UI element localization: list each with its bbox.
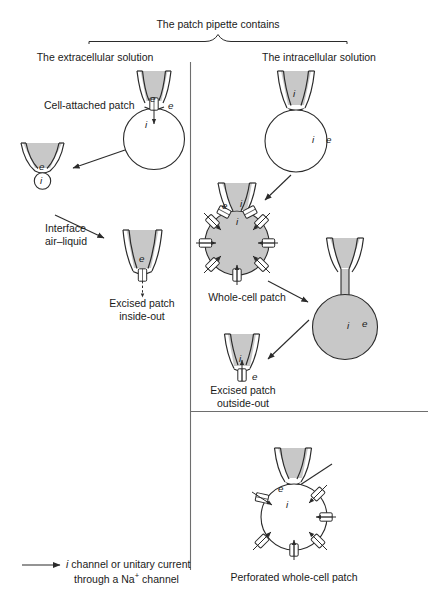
marker-i-large-cell: i <box>347 320 349 331</box>
excised-outside-out-label-line1: Excised patch <box>210 384 275 396</box>
marker-e-large-cell: e <box>362 318 367 329</box>
marker-i-outside-out: i <box>239 353 241 364</box>
legend-i-symbol: i <box>66 558 68 570</box>
intracellular-cell <box>265 110 327 172</box>
legend-superscript-plus: + <box>135 571 139 580</box>
marker-i-whole-cell-body: i <box>236 216 238 227</box>
marker-i-excised-small: i <box>40 175 42 186</box>
marker-i-cell-attached: i <box>145 119 147 130</box>
marker-e-inside-out: e <box>139 253 144 264</box>
marker-e-whole-cell: e <box>222 200 227 211</box>
marker-i-perforated: i <box>286 499 288 510</box>
excised-inside-out-pipette <box>123 230 162 274</box>
marker-i-whole-cell-pipette: i <box>240 198 242 209</box>
legend-line2-pre: through a Na <box>74 573 135 585</box>
marker-e-cell-top: e <box>326 134 331 145</box>
marker-e-cell-attached-outer: e <box>168 100 173 111</box>
intracellular-pipette <box>278 71 315 112</box>
marker-e-cell-attached-inner: e <box>150 93 155 104</box>
legend-line2-post: channel <box>142 573 179 585</box>
legend-line1: ichannel or unitary current <box>66 558 190 570</box>
marker-e-perforated: e <box>278 483 283 494</box>
excised-outside-out-label-line2: outside-out <box>217 397 269 409</box>
cell-attached-label: Cell-attached patch <box>44 99 134 111</box>
right-solution-label: The intracellular solution <box>262 51 376 63</box>
bracket-label: The patch pipette contains <box>156 18 279 30</box>
patch-clamp-figure: The patch pipette contains The extracell… <box>0 0 436 603</box>
interface-label-line1: Interface <box>45 222 86 234</box>
left-solution-label: The extracellular solution <box>37 51 154 63</box>
header-bracket <box>89 35 347 45</box>
whole-cell-label: Whole-cell patch <box>208 291 286 303</box>
arrow-to-inside-out <box>73 150 125 168</box>
whole-cell-large-pipette <box>327 238 364 297</box>
interface-label-line2: air–liquid <box>45 235 87 247</box>
excised-inside-out-label-line1: Excised patch <box>109 297 174 309</box>
legend-line2: through a Na+channel <box>74 572 179 585</box>
legend-line1-text: channel or unitary current <box>71 558 190 570</box>
arrow-to-outside-out <box>268 320 309 359</box>
arrow-to-whole-cell <box>265 175 291 200</box>
marker-i-cell-top: i <box>312 134 314 145</box>
channel-inside-out <box>138 269 146 281</box>
excised-inside-out-label-line2: inside-out <box>119 310 165 322</box>
marker-e-outside-out: e <box>252 371 257 382</box>
perforated-label: Perforated whole-cell patch <box>230 571 357 583</box>
marker-i-pipette-top: i <box>293 88 295 99</box>
whole-cell-large-body <box>313 295 378 360</box>
marker-e-excised-small: e <box>39 161 44 172</box>
